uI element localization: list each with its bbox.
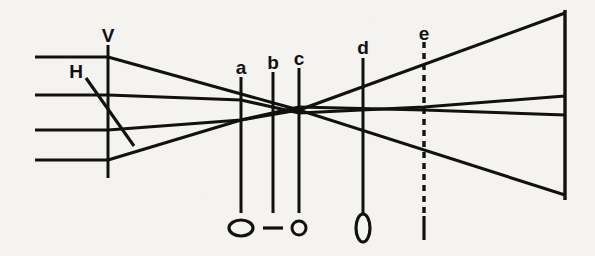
label-plane-d: d (357, 37, 369, 58)
label-plane-e: e (419, 23, 430, 44)
label-plane-a: a (236, 57, 247, 78)
label-plane-h: H (69, 61, 83, 82)
ray-bottom-steep (108, 110, 565, 195)
label-plane-c: c (294, 48, 305, 69)
plane-line-group (108, 42, 424, 215)
label-plane-b: b (267, 52, 279, 73)
ray-path-group (108, 13, 565, 195)
beam-spot-c-small-circle (292, 221, 306, 235)
ray-diagram-figure: V H a b c d e (0, 0, 595, 256)
beam-spot-group (229, 214, 424, 242)
ray-diagram-canvas: V H a b c d e (0, 0, 595, 256)
label-plane-v: V (102, 25, 115, 46)
beam-spot-d-tall-ellipse (356, 214, 370, 242)
ray-top-steep (108, 13, 565, 110)
h-leader-line (86, 78, 134, 146)
beam-spot-a-wide-ellipse (229, 220, 253, 236)
